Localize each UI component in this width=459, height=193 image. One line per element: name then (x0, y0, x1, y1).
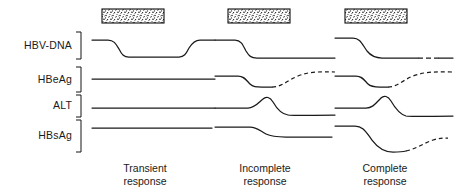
trace-complete-alt (335, 96, 453, 116)
trace-transient-hbv-dna (92, 40, 215, 57)
trace-incomplete-hbeag-solid (215, 76, 272, 87)
trace-complete-hbeag-dashed (388, 72, 452, 87)
trace-complete-hbeag-solid (335, 76, 388, 87)
trace-complete-hbsag-dashed (406, 138, 448, 151)
treatment-bar-complete (345, 9, 407, 23)
bracket-hbsag (76, 120, 81, 152)
trace-incomplete-alt (215, 97, 335, 115)
bracket-hbeag (76, 67, 81, 92)
trace-complete-hbsag-solid (335, 126, 406, 152)
hepatitis-b-response-figure: HBV-DNA HBeAg ALT HBsAg Transient respon… (0, 0, 459, 193)
trace-incomplete-hbeag-dashed (272, 72, 335, 87)
trace-incomplete-hbv-dna (215, 40, 335, 58)
plot-canvas (0, 0, 459, 193)
treatment-bar-transient (102, 9, 164, 23)
bracket-alt (76, 95, 81, 117)
treatment-bar-incomplete (228, 9, 290, 23)
trace-incomplete-hbsag (215, 127, 332, 137)
trace-complete-hbv-dna-solid (335, 38, 418, 58)
bracket-hbv-dna (76, 32, 81, 59)
